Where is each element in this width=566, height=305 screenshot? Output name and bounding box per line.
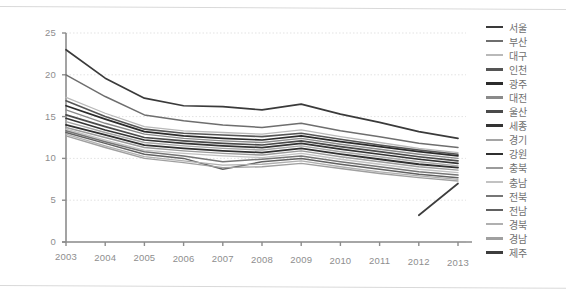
legend-color-swatch	[486, 110, 503, 113]
legend-item-label: 부산	[509, 34, 527, 49]
x-axis-tick-label: 2012	[399, 256, 439, 267]
x-axis-tick-label: 2011	[360, 255, 400, 266]
legend-color-swatch	[486, 181, 503, 183]
legend-item-10[interactable]: 충북	[486, 161, 566, 175]
legend-item-14[interactable]: 경북	[486, 217, 566, 231]
legend-item-label: 제주	[509, 245, 527, 260]
legend-color-swatch	[486, 223, 503, 225]
y-axis-tick-label: 5	[30, 194, 56, 205]
legend-color-swatch	[486, 96, 503, 98]
x-axis-tick-label: 2006	[164, 253, 204, 264]
legend-color-swatch	[486, 209, 503, 211]
legend-item-9[interactable]: 강원	[486, 147, 566, 161]
legend-item-label: 경북	[509, 217, 527, 232]
legend-color-swatch	[486, 195, 503, 197]
legend-item-16[interactable]: 제주	[486, 246, 566, 260]
legend-color-swatch	[486, 68, 503, 71]
x-axis-tick-label: 2010	[320, 255, 360, 266]
legend-item-label: 전북	[509, 189, 527, 204]
legend-item-label: 강원	[509, 146, 527, 161]
y-axis-tick-label: 25	[30, 27, 56, 38]
x-axis-tick-label: 2004	[85, 252, 125, 263]
legend-item-label: 대전	[509, 90, 527, 105]
legend-color-swatch	[486, 251, 503, 254]
y-axis-tick-label: 20	[30, 69, 56, 80]
legend-item-12[interactable]: 전북	[486, 189, 566, 203]
legend-item-11[interactable]: 충남	[486, 175, 566, 189]
legend-color-swatch	[486, 26, 503, 29]
legend-color-swatch	[486, 237, 503, 239]
legend-item-4[interactable]: 광주	[486, 76, 566, 90]
legend-item-label: 충북	[509, 160, 527, 175]
chart-frame: 0510152025200320042005200620072008200920…	[0, 0, 566, 305]
y-axis-tick-label: 15	[30, 111, 56, 122]
legend-item-label: 충남	[509, 175, 527, 190]
y-axis-tick-label: 10	[30, 152, 56, 163]
legend-color-swatch	[486, 82, 503, 85]
x-axis-tick-label: 2003	[46, 251, 86, 262]
legend-item-0[interactable]: 서울	[486, 20, 566, 34]
x-axis-tick-label: 2007	[203, 253, 243, 264]
legend-item-15[interactable]: 경남	[486, 231, 566, 245]
legend-item-2[interactable]: 대구	[486, 48, 566, 62]
legend-item-label: 광주	[509, 76, 527, 91]
legend-item-5[interactable]: 대전	[486, 90, 566, 104]
chart-legend: 서울부산대구인천광주대전울산세종경기강원충북충남전북전남경북경남제주	[486, 20, 566, 260]
x-axis-tick-label: 2009	[281, 254, 321, 265]
legend-item-3[interactable]: 인천	[486, 62, 566, 76]
legend-item-6[interactable]: 울산	[486, 105, 566, 119]
legend-item-label: 인천	[509, 62, 527, 77]
y-axis-tick-label: 0	[30, 236, 56, 247]
legend-item-1[interactable]: 부산	[486, 34, 566, 48]
legend-item-label: 대구	[509, 48, 527, 63]
x-axis-tick-label: 2008	[242, 254, 282, 265]
legend-item-label: 울산	[509, 104, 527, 119]
legend-color-swatch	[486, 124, 503, 127]
series-line-16	[419, 183, 458, 215]
x-axis-tick-label: 2013	[438, 257, 478, 268]
legend-color-swatch	[486, 139, 503, 141]
legend-color-swatch	[486, 167, 503, 169]
x-axis-tick-label: 2005	[124, 252, 164, 263]
line-chart-plot-area: 0510152025200320042005200620072008200920…	[0, 0, 566, 305]
legend-item-label: 서울	[509, 20, 527, 35]
legend-color-swatch	[486, 40, 503, 42]
legend-item-8[interactable]: 경기	[486, 133, 566, 147]
legend-item-13[interactable]: 전남	[486, 203, 566, 217]
legend-item-label: 경기	[509, 132, 527, 147]
legend-item-label: 세종	[509, 118, 527, 133]
legend-item-label: 전남	[509, 203, 527, 218]
legend-color-swatch	[486, 153, 503, 156]
legend-color-swatch	[486, 54, 503, 56]
legend-item-7[interactable]: 세종	[486, 119, 566, 133]
legend-item-label: 경남	[509, 231, 527, 246]
